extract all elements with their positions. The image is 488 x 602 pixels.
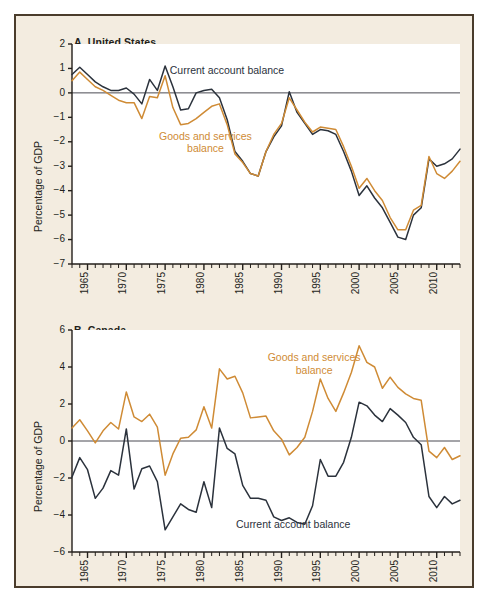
x-tick-label: 1985 [234,560,245,583]
y-tick-label: −6 [54,546,66,557]
y-tick-label: 0 [59,435,65,446]
x-tick-label: 2010 [428,272,439,295]
x-tick-label: 1980 [195,272,206,295]
y-tick-label: −5 [54,209,66,220]
y-tick-label: 1 [59,62,65,73]
x-tick-label: 2000 [350,560,361,583]
x-tick-label: 2005 [389,560,400,583]
x-tick-label: 1970 [117,560,128,583]
y-tick-label: −2 [54,135,66,146]
x-tick-label: 1990 [273,560,284,583]
x-tick-label: 1975 [156,272,167,295]
x-tick-label: 1990 [273,272,284,295]
goods-and-services-balance-label-a-line2: balance [187,142,224,154]
panel-canada: B. Canada Percentage of GDP 6420−2−4−619… [16,312,472,586]
x-tick-label: 1965 [79,272,90,295]
figure-container: A. United States Percentage of GDP 210−1… [14,14,474,588]
x-tick-label: 1995 [311,560,322,583]
y-tick-label: −3 [54,160,66,171]
x-tick-label: 2010 [428,560,439,583]
x-tick-label: 1985 [234,272,245,295]
panel-b-plot: 6420−2−4−6196519701975198019851990199520… [16,312,476,586]
y-tick-label: −4 [54,509,66,520]
x-tick-label: 2005 [389,272,400,295]
y-tick-label: −4 [54,184,66,195]
x-tick-label: 2000 [350,272,361,295]
x-tick-label: 1970 [117,272,128,295]
goods-and-services-balance-label-b: Goods and services [268,351,361,363]
y-tick-label: 0 [59,87,65,98]
x-tick-label: 1995 [311,272,322,295]
y-tick-label: −1 [54,111,66,122]
y-tick-label: −6 [54,233,66,244]
x-tick-label: 1975 [156,560,167,583]
goods-and-services-balance-label-b-line2: balance [296,364,333,376]
y-tick-label: 6 [59,324,65,335]
current-account-balance-label-a: Current account balance [170,64,285,76]
y-tick-label: −2 [54,472,66,483]
x-tick-label: 1965 [79,560,90,583]
y-tick-label: 2 [59,38,65,49]
current-account-balance-label-b: Current account balance [236,518,351,530]
panel-united-states: A. United States Percentage of GDP 210−1… [16,20,472,312]
x-tick-label: 1980 [195,560,206,583]
panel-a-plot: 210−1−2−3−4−5−6−719651970197519801985199… [16,20,476,312]
y-tick-label: 2 [59,398,65,409]
goods-and-services-balance-label-a: Goods and services [159,130,252,142]
y-tick-label: −7 [54,258,66,269]
y-tick-label: 4 [59,361,65,372]
